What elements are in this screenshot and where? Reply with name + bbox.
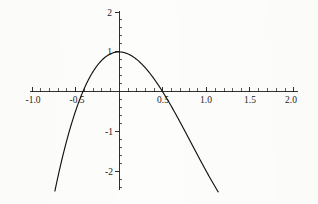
x-tick-label-2-0: 2.0 — [285, 95, 297, 105]
x-axis-tick-labels: -1.0 -0.5 0.5 1.0 1.5 2.0 — [25, 95, 297, 105]
y-tick-label-neg-1: -1 — [105, 127, 113, 137]
x-tick-label-1-0: 1.0 — [200, 95, 212, 105]
y-tick-label-neg-2: -2 — [105, 167, 113, 177]
function-curve — [55, 52, 218, 192]
cubic-function-chart: -1.0 -0.5 0.5 1.0 1.5 2.0 — [0, 0, 318, 204]
x-tick-label-1-5: 1.5 — [244, 95, 256, 105]
y-axis-minor-ticks — [119, 19, 122, 187]
y-tick-label-2: 2 — [107, 8, 112, 18]
y-axis-tick-labels: 2 1 -1 -2 — [105, 8, 113, 177]
y-axis-group: 2 1 -1 -2 — [105, 8, 122, 191]
plot-container: -1.0 -0.5 0.5 1.0 1.5 2.0 — [0, 0, 318, 204]
x-tick-label-neg-0-5: -0.5 — [69, 95, 84, 105]
x-tick-label-neg-1-0: -1.0 — [25, 95, 40, 105]
